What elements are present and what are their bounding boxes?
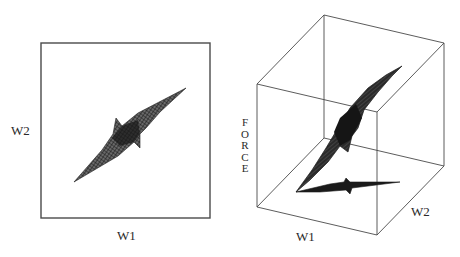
perspective-y-label: W2 bbox=[411, 204, 430, 220]
perspective-z-label: FORCE bbox=[239, 117, 251, 175]
top-view-y-label: W2 bbox=[11, 123, 30, 139]
top-view-x-label: W1 bbox=[117, 228, 136, 244]
perspective-x-label: W1 bbox=[296, 229, 315, 245]
perspective-surface bbox=[296, 66, 402, 192]
plot-canvas bbox=[0, 0, 460, 257]
top-view-surface bbox=[74, 88, 186, 182]
figure: W2 W1 FORCE W1 W2 bbox=[0, 0, 460, 257]
floor-projection bbox=[296, 178, 400, 194]
